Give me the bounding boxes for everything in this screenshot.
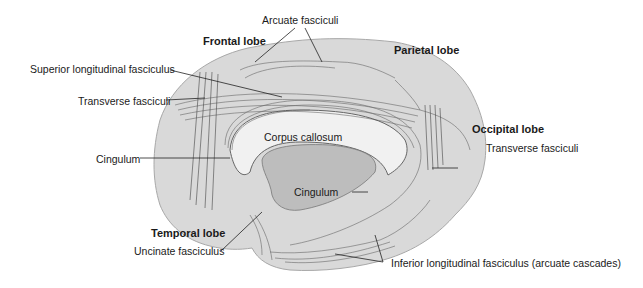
label-uncinate-fasciculus: Uncinate fasciculus bbox=[134, 245, 224, 257]
label-transverse-fasciculi-left: Transverse fasciculi bbox=[78, 95, 170, 107]
label-cingulum-left: Cingulum bbox=[96, 153, 140, 165]
label-frontal-lobe: Frontal lobe bbox=[203, 35, 266, 47]
label-corpus-callosum: Corpus callosum bbox=[264, 131, 342, 143]
label-superior-longitudinal-fasciculus: Superior longitudinal fasciculus bbox=[30, 63, 175, 75]
label-occipital-lobe: Occipital lobe bbox=[472, 123, 544, 135]
label-arcuate-fasciculi: Arcuate fasciculi bbox=[262, 14, 338, 26]
label-parietal-lobe: Parietal lobe bbox=[394, 44, 459, 56]
label-inferior-longitudinal-fasciculus: Inferior longitudinal fasciculus (arcuat… bbox=[391, 257, 621, 269]
label-temporal-lobe: Temporal lobe bbox=[151, 227, 225, 239]
label-transverse-fasciculi-right: Transverse fasciculi bbox=[486, 142, 578, 154]
label-cingulum-center: Cingulum bbox=[294, 186, 338, 198]
